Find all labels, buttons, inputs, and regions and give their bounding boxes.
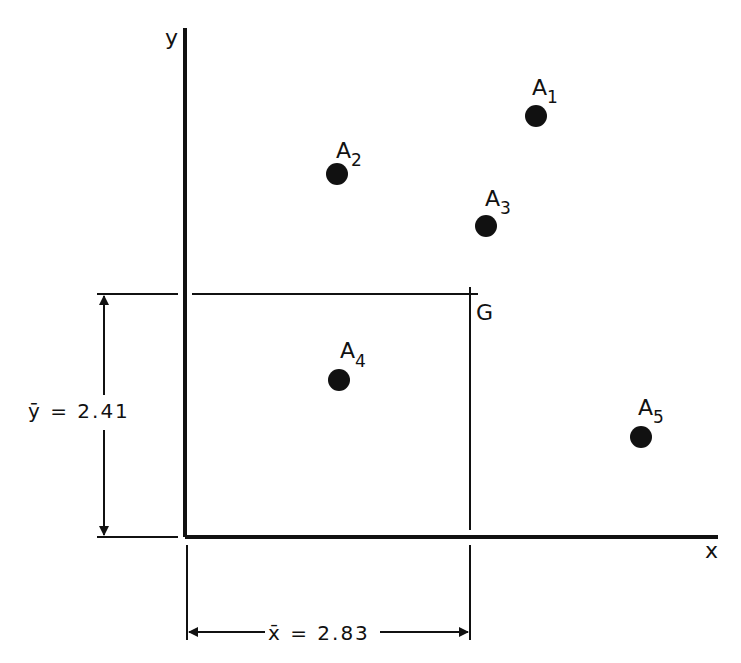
point-A2: A2 (326, 138, 362, 185)
point-subscript: 3 (500, 198, 511, 218)
x-bar-value-label: x̄ = 2.83 (268, 621, 370, 645)
point-subscript: 2 (351, 150, 362, 170)
point-label: A (638, 395, 653, 420)
point-label: A (336, 138, 351, 163)
point-marker (475, 215, 497, 237)
point-marker (525, 105, 547, 127)
centroid-label: G (476, 300, 493, 325)
point-marker (328, 369, 350, 391)
svg-text:A4: A4 (340, 338, 366, 371)
centroid-diagram: y x G ȳ = 2.41 x̄ = 2.83 A1 A2 A3 A4 A5 (0, 0, 741, 663)
point-A5: A5 (630, 395, 664, 448)
y-axis-label: y (165, 25, 178, 50)
point-label: A (485, 186, 500, 211)
point-A4: A4 (328, 338, 366, 391)
point-subscript: 1 (547, 87, 558, 107)
point-marker (630, 426, 652, 448)
svg-text:A1: A1 (532, 75, 558, 107)
svg-text:A5: A5 (638, 395, 664, 427)
point-A1: A1 (525, 75, 558, 127)
svg-text:A3: A3 (485, 186, 511, 218)
point-subscript: 4 (355, 351, 366, 371)
x-axis-label: x (705, 538, 718, 563)
y-bar-value-label: ȳ = 2.41 (28, 399, 130, 423)
point-label: A (532, 75, 547, 100)
point-label: A (340, 338, 355, 363)
point-marker (326, 163, 348, 185)
point-A3: A3 (475, 186, 511, 237)
point-subscript: 5 (653, 407, 664, 427)
